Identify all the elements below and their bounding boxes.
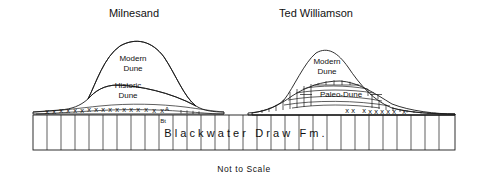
- ted-williamson-section: Modern Dune: [248, 50, 455, 116]
- svg-text:x: x: [122, 105, 126, 114]
- svg-text:x: x: [368, 107, 372, 116]
- formation-label: Blackwater Draw Fm.: [164, 127, 327, 139]
- svg-text:x: x: [73, 106, 77, 115]
- svg-text:x: x: [136, 105, 140, 114]
- milnesand-historic-dune-label-line2: Dune: [118, 91, 138, 100]
- svg-text:x: x: [108, 105, 112, 114]
- blackwater-draw-formation: Blackwater Draw Fm.: [33, 115, 455, 150]
- bt-horizon-label: Bt: [160, 118, 166, 124]
- svg-text:x: x: [87, 105, 91, 114]
- milnesand-section: Modern Dune Historic Dune x x x x x x x …: [33, 41, 224, 124]
- svg-text:x: x: [402, 107, 406, 116]
- milnesand-historic-dune-label-line1: Historic: [115, 81, 142, 90]
- svg-text:x: x: [94, 105, 98, 114]
- site-title-milnesand: Milnesand: [109, 7, 159, 19]
- tw-modern-dune-label-line2: Dune: [317, 67, 337, 76]
- site-title-ted-williamson: Ted Williamson: [279, 7, 353, 19]
- svg-text:x: x: [115, 105, 119, 114]
- dune-stratigraphy-figure: Milnesand Ted Williamson: [0, 0, 488, 181]
- historic-dune-body: [33, 41, 224, 114]
- svg-text:x: x: [66, 106, 70, 115]
- a-horizon-label: A: [165, 106, 169, 112]
- svg-text:x: x: [144, 105, 148, 114]
- svg-text:x: x: [380, 107, 384, 116]
- scale-caption: Not to Scale: [217, 164, 271, 174]
- ted-williamson-caliche-marks: x x x x x x x x x: [345, 106, 406, 116]
- svg-text:x: x: [362, 106, 366, 115]
- svg-text:x: x: [129, 105, 133, 114]
- svg-text:x: x: [152, 106, 156, 115]
- svg-text:x: x: [160, 106, 164, 115]
- svg-text:x: x: [52, 107, 56, 116]
- milnesand-modern-dune-label-line2: Dune: [123, 64, 143, 73]
- svg-text:x: x: [374, 107, 378, 116]
- modern-historic-contact: [88, 85, 196, 106]
- svg-text:x: x: [101, 105, 105, 114]
- svg-text:x: x: [80, 106, 84, 115]
- svg-text:x: x: [59, 106, 63, 115]
- svg-text:x: x: [345, 106, 349, 115]
- modern-dune-body: [88, 41, 196, 106]
- paleo-dune-label-group: Paleo-Dune: [300, 90, 382, 99]
- svg-text:x: x: [386, 107, 390, 116]
- svg-text:x: x: [45, 107, 49, 116]
- tw-modern-dune-label-line1: Modern: [313, 57, 340, 66]
- paleo-dune-label: Paleo-Dune: [320, 90, 363, 99]
- svg-text:x: x: [351, 106, 355, 115]
- milnesand-modern-dune-label-line1: Modern: [119, 54, 146, 63]
